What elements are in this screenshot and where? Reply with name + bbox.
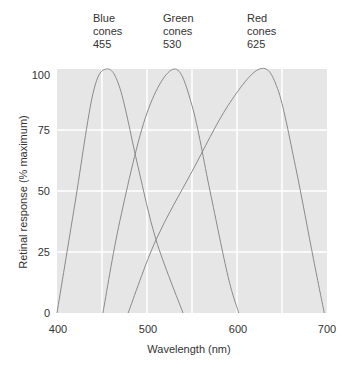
- y-tick-50: 50: [38, 185, 50, 197]
- y-tick-25: 25: [38, 246, 50, 258]
- x-tick-700: 700: [318, 323, 336, 335]
- x-tick-400: 400: [49, 323, 67, 335]
- y-tick-labels: 0 25 50 75 100: [32, 69, 50, 319]
- chart-svg: 0 25 50 75 100 400 500 600 700 Wavelengt…: [0, 0, 352, 370]
- x-tick-500: 500: [139, 323, 157, 335]
- y-axis-label: Retinal response (% maximum): [17, 115, 29, 268]
- x-tick-600: 600: [229, 323, 247, 335]
- y-tick-75: 75: [38, 124, 50, 136]
- y-tick-100: 100: [32, 69, 50, 81]
- x-tick-labels: 400 500 600 700: [49, 323, 336, 335]
- x-axis-label: Wavelength (nm): [147, 343, 230, 355]
- y-tick-0: 0: [44, 307, 50, 319]
